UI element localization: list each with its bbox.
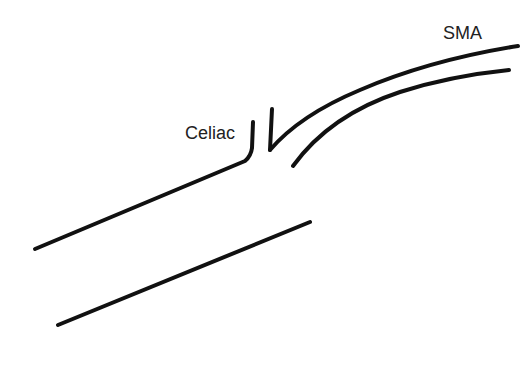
sma-lower-wall [293, 70, 509, 166]
sma-label: SMA [443, 24, 482, 42]
diagram-canvas: Celiac SMA [0, 0, 526, 383]
vessel-diagram [0, 0, 526, 383]
celiac-right-wall [270, 109, 272, 150]
sma-upper-wall [270, 46, 518, 150]
aorta-lower-wall [58, 222, 310, 325]
celiac-label: Celiac [185, 124, 235, 142]
